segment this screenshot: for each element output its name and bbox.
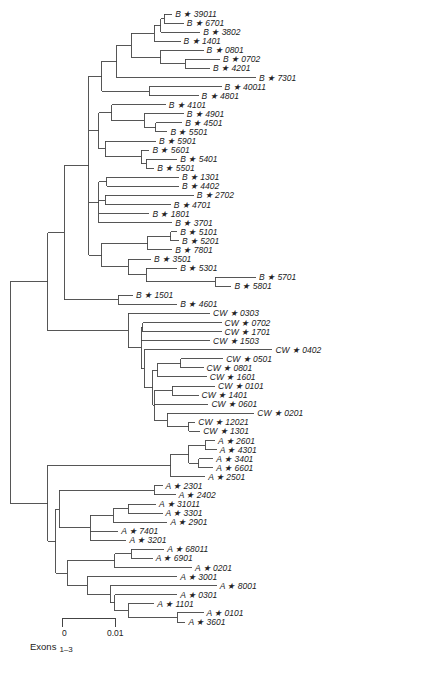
leaf-label: B ★ 4801 xyxy=(202,91,240,101)
leaf-label: CW ★ 0201 xyxy=(257,408,303,418)
phylogenetic-tree: B ★ 39011B ★ 6701B ★ 3802B ★ 1401B ★ 080… xyxy=(0,0,426,679)
leaf-label: A ★ 8001 xyxy=(219,581,257,591)
leaf-label: A ★ 3201 xyxy=(128,535,166,545)
leaf-label: CW ★ 0601 xyxy=(211,399,257,409)
leaf-label: B ★ 1501 xyxy=(136,290,174,300)
leaf-label: A ★ 6901 xyxy=(155,553,193,563)
scale-bar xyxy=(62,618,116,627)
leaf-label: A ★ 2501 xyxy=(207,472,245,482)
leaf-label: A ★ 1101 xyxy=(156,599,194,609)
scale-caption-subscript: 1–3 xyxy=(59,645,72,654)
leaf-label: A ★ 2901 xyxy=(169,517,207,527)
scale-caption-text: Exons xyxy=(30,641,56,652)
scale-caption: Exons1–3 xyxy=(30,641,73,652)
leaf-label: A ★ 3601 xyxy=(187,617,225,627)
leaf-label: B ★ 5301 xyxy=(180,263,218,273)
leaf-label: B ★ 5801 xyxy=(234,281,272,291)
leaf-label: B ★ 4201 xyxy=(213,63,251,73)
scale-min-label: 0 xyxy=(62,628,67,638)
leaf-label: A ★ 3001 xyxy=(179,572,217,582)
leaf-label: CW ★ 1503 xyxy=(213,336,259,346)
scale-max-label: 0.01 xyxy=(107,628,124,638)
leaf-label: CW ★ 0402 xyxy=(275,345,321,355)
